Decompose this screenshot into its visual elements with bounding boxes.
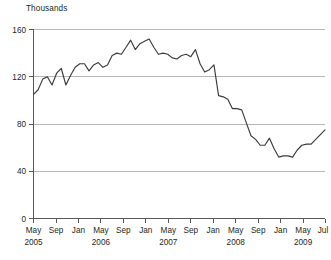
x-tick-month-7: Sep bbox=[184, 226, 199, 235]
x-tick-year-labels: 2005 2006 2007 2008 2009 bbox=[24, 238, 312, 247]
x-tick-month-0: May bbox=[26, 226, 42, 235]
x-tick-year-2008: 2008 bbox=[227, 238, 246, 247]
y-tick-labels: 160 120 80 40 0 bbox=[12, 26, 26, 224]
x-tick-month-13: Jul bbox=[318, 226, 329, 235]
x-tick-month-labels: May Sep Jan May Sep Jan May Sep Jan May … bbox=[26, 226, 329, 235]
y-axis bbox=[29, 29, 34, 219]
x-tick-month-5: Jan bbox=[139, 226, 153, 235]
x-tick-month-11: Jan bbox=[274, 226, 288, 235]
line-chart-plot: 160 120 80 40 0 May Sep Jan bbox=[0, 0, 331, 260]
x-tick-year-2006: 2006 bbox=[92, 238, 111, 247]
x-tick-year-2005: 2005 bbox=[24, 238, 43, 247]
chart-figure: Thousands 160 120 80 40 0 bbox=[0, 0, 331, 260]
y-tick-label-40: 40 bbox=[17, 167, 27, 176]
x-tick-month-12: May bbox=[295, 226, 311, 235]
x-tick-month-9: May bbox=[228, 226, 244, 235]
x-axis bbox=[33, 219, 325, 224]
x-tick-month-6: May bbox=[161, 226, 177, 235]
x-tick-month-4: Sep bbox=[116, 226, 131, 235]
gridlines bbox=[33, 30, 325, 172]
x-tick-month-8: Jan bbox=[207, 226, 221, 235]
x-tick-month-10: Sep bbox=[251, 226, 266, 235]
y-tick-label-160: 160 bbox=[12, 26, 26, 35]
y-tick-label-0: 0 bbox=[21, 215, 26, 224]
y-tick-label-120: 120 bbox=[12, 73, 26, 82]
y-tick-label-80: 80 bbox=[17, 120, 27, 129]
footnote-strip bbox=[6, 247, 325, 257]
x-tick-year-2007: 2007 bbox=[159, 238, 178, 247]
x-tick-month-2: Jan bbox=[72, 226, 86, 235]
x-tick-year-2009: 2009 bbox=[294, 238, 313, 247]
x-tick-month-1: Sep bbox=[49, 226, 64, 235]
x-tick-month-3: May bbox=[93, 226, 109, 235]
data-series-line bbox=[34, 39, 326, 157]
